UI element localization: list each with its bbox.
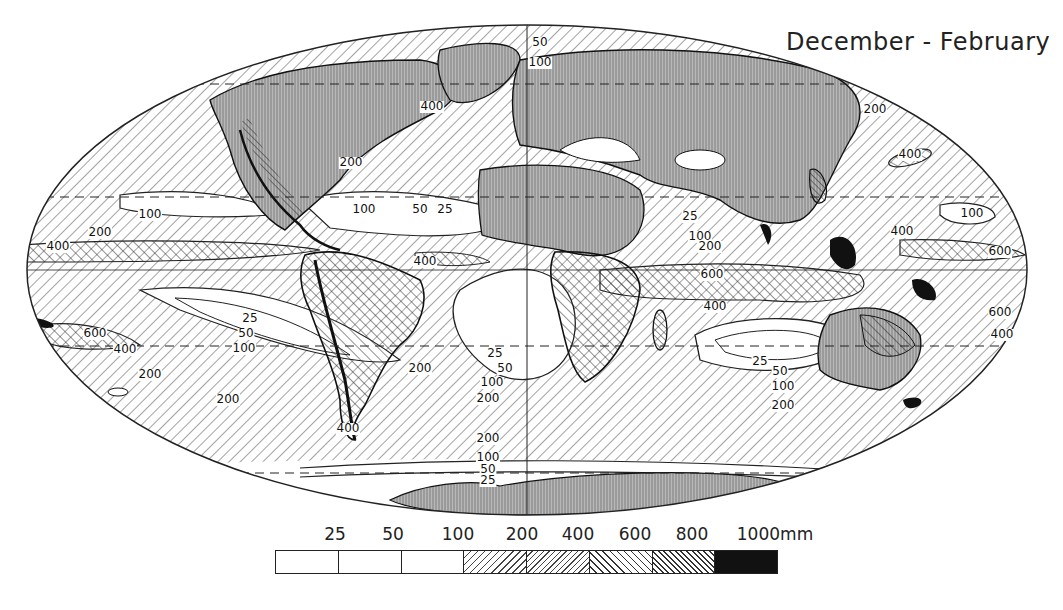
contour-label: 50: [772, 364, 787, 378]
legend-swatch-600-800: [653, 551, 716, 573]
contour-label: 25: [437, 202, 452, 216]
contour-label: 400: [114, 342, 137, 356]
legend-swatch-lt25: [276, 551, 339, 573]
contour-label: 100: [233, 341, 256, 355]
legend-bar: [275, 550, 778, 574]
contour-label: 200: [217, 392, 240, 406]
contour-label: 200: [409, 361, 432, 375]
contour-label: 50: [412, 202, 427, 216]
contour-label: 25: [480, 473, 495, 487]
world-precipitation-map: 5010040020020040010020040010050254002510…: [0, 0, 1063, 610]
legend-swatch-25-50: [339, 551, 402, 573]
legend-labels: 25 50 100 200 400 600 800 1000mm: [310, 524, 870, 546]
contour-label: 200: [864, 102, 887, 116]
contour-label: 200: [139, 367, 162, 381]
contour-label: 50: [497, 361, 512, 375]
contour-label: 50: [532, 35, 547, 49]
contour-label: 25: [242, 311, 257, 325]
legend-swatch-gt800: [715, 551, 777, 573]
contour-label: 100: [961, 206, 984, 220]
contour-label: 100: [353, 202, 376, 216]
contour-label: 200: [699, 239, 722, 253]
legend-swatch-200-400: [527, 551, 590, 573]
contour-label: 600: [84, 326, 107, 340]
legend-break-1000mm: 1000mm: [737, 524, 813, 544]
contour-label: 200: [772, 398, 795, 412]
legend-swatch-50-100: [402, 551, 465, 573]
contour-label: 400: [899, 147, 922, 161]
legend-break-600: 600: [619, 524, 651, 544]
contour-label: 400: [337, 421, 360, 435]
legend-break-800: 800: [676, 524, 708, 544]
contour-label: 100: [481, 375, 504, 389]
contour-label: 25: [682, 209, 697, 223]
contour-label: 600: [701, 267, 724, 281]
contour-label: 400: [414, 254, 437, 268]
contour-label: 400: [421, 99, 444, 113]
contour-label: 600: [989, 244, 1012, 258]
contour-label: 100: [529, 55, 552, 69]
legend-break-400: 400: [562, 524, 594, 544]
map-title: December - February: [786, 28, 1050, 56]
legend-break-50: 50: [382, 524, 404, 544]
contour-label: 400: [991, 327, 1014, 341]
contour-label: 400: [891, 224, 914, 238]
contour-label: 200: [477, 431, 500, 445]
map-body: [0, 0, 1063, 610]
legend-break-200: 200: [506, 524, 538, 544]
legend-swatch-100-200: [464, 551, 527, 573]
contour-label: 25: [752, 354, 767, 368]
legend-swatch-400-600: [590, 551, 653, 573]
contour-label: 400: [47, 239, 70, 253]
contour-label: 25: [487, 346, 502, 360]
contour-label: 200: [89, 225, 112, 239]
contour-label: 600: [989, 305, 1012, 319]
legend-break-25: 25: [324, 524, 346, 544]
contour-label: 200: [340, 155, 363, 169]
legend-break-100: 100: [442, 524, 474, 544]
contour-label: 100: [772, 379, 795, 393]
contour-label: 100: [139, 207, 162, 221]
contour-label: 50: [238, 326, 253, 340]
contour-label: 200: [477, 391, 500, 405]
contour-label: 400: [704, 299, 727, 313]
